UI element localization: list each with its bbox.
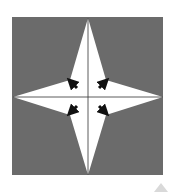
scroll-to-top-button[interactable] xyxy=(154,183,168,192)
triangle-up-icon xyxy=(154,183,168,192)
star-diagram xyxy=(0,0,175,192)
